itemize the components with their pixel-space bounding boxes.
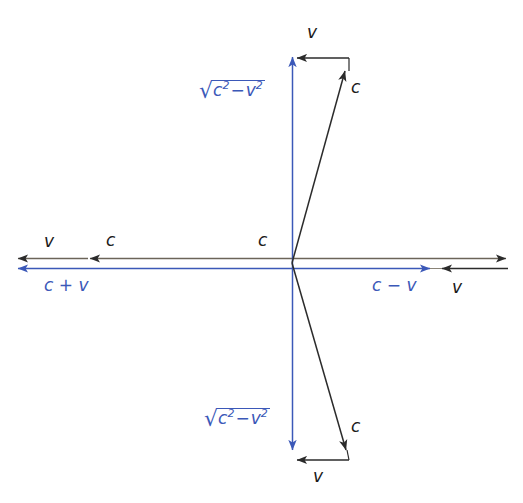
label-right-difference: c − v	[372, 277, 416, 294]
radicand-exp2-top: 2	[256, 79, 263, 92]
radicand-minus-top: −	[229, 80, 245, 100]
radical-sign-top: √	[199, 80, 213, 102]
label-bottom-c: c	[351, 418, 360, 435]
label-left-v: v	[44, 233, 54, 250]
vector-diagram: v c √c2−v2 v c c + v c c − v v √c2−v2 c …	[0, 0, 523, 503]
label-right-v: v	[452, 279, 462, 296]
label-top-v: v	[307, 24, 317, 41]
radicand-exp2-bottom: 2	[261, 407, 268, 420]
label-bottom-resultant: √c2−v2	[204, 408, 270, 430]
bottom-aether-drift	[297, 450, 349, 460]
label-bottom-v: v	[313, 468, 323, 485]
downward-light-ray	[292, 263, 346, 450]
radicand-base1-bottom: c	[218, 408, 227, 428]
top-aether-drift	[297, 58, 349, 71]
label-left-sum: c + v	[44, 277, 88, 294]
radicand-minus-bottom: −	[234, 408, 250, 428]
radicand-base2-top: v	[246, 80, 256, 100]
radical-sign-bottom: √	[204, 408, 218, 430]
radicand-base2-bottom: v	[251, 408, 261, 428]
upward-light-ray	[292, 71, 345, 263]
radicand-base1-top: c	[213, 80, 222, 100]
label-top-resultant: √c2−v2	[199, 80, 265, 102]
label-left-c: c	[106, 232, 115, 249]
label-top-c: c	[351, 79, 360, 96]
label-center-c: c	[258, 232, 267, 249]
